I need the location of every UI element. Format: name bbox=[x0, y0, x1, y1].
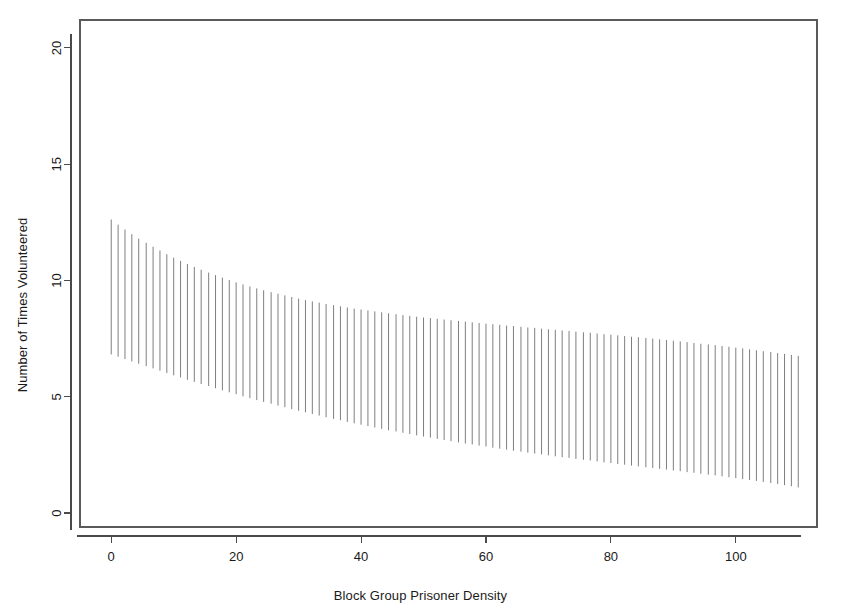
y-axis-title-container: Number of Times Volunteered bbox=[0, 0, 44, 609]
x-tick-label: 100 bbox=[725, 549, 747, 564]
chart-plot-area: 020406080100 05101520 bbox=[0, 0, 841, 609]
x-tick-label: 20 bbox=[229, 549, 243, 564]
y-tick-label: 15 bbox=[50, 157, 65, 171]
x-axis: 020406080100 bbox=[77, 536, 801, 564]
y-tick-label: 5 bbox=[50, 393, 65, 400]
x-tick-label: 0 bbox=[108, 549, 115, 564]
figure-canvas: 020406080100 05101520 Number of Times Vo… bbox=[0, 0, 841, 609]
y-tick-label: 0 bbox=[50, 509, 65, 516]
x-tick-label: 80 bbox=[604, 549, 618, 564]
confidence-interval-bars bbox=[111, 220, 798, 488]
x-tick-label: 40 bbox=[354, 549, 368, 564]
y-axis-title: Number of Times Volunteered bbox=[15, 217, 30, 392]
x-tick-label: 60 bbox=[479, 549, 493, 564]
y-tick-label: 20 bbox=[50, 41, 65, 55]
plot-border bbox=[80, 20, 817, 527]
x-axis-title: Block Group Prisoner Density bbox=[0, 588, 841, 603]
plot-frame bbox=[80, 20, 817, 527]
y-axis: 05101520 bbox=[50, 34, 72, 530]
y-tick-label: 10 bbox=[50, 273, 65, 287]
